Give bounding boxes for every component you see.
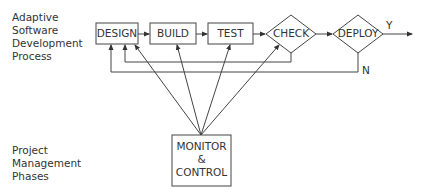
process-label-line: Adaptive [12,11,83,24]
check-label: CHECK [266,27,316,39]
monitor-label-line: & [172,153,231,166]
arrow-monitor-test [201,45,230,135]
process-label-line: Process [12,50,83,63]
build-label: BUILD [150,27,196,39]
no-label: N [362,64,370,76]
deploy-label: DEPLOY [333,27,383,39]
process-label-line: Software [12,24,83,37]
design-label: DESIGN [96,27,138,39]
arrow-monitor-build [177,45,201,135]
test-label: TEST [208,27,253,39]
monitor-label-line: CONTROL [172,166,231,179]
process-label-line: Development [12,37,83,50]
arrow-monitor-check [201,45,279,135]
phases-label-line: Project [12,144,81,157]
phases-label-line: Management [12,157,81,170]
arrow-monitor-design [135,45,201,135]
monitor-label-line: MONITOR [172,140,231,153]
phases-label: Project Management Phases [12,144,81,183]
yes-label: Y [386,19,392,31]
phases-label-line: Phases [12,170,81,183]
process-label: Adaptive Software Development Process [12,11,83,63]
feedback-deploy-design [111,45,358,72]
monitor-control-label: MONITOR & CONTROL [172,140,231,179]
